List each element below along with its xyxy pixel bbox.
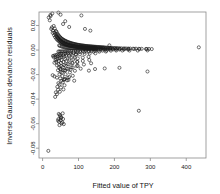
data-point (197, 46, 200, 49)
data-point (66, 62, 69, 65)
data-point (83, 52, 86, 55)
data-point (93, 68, 96, 71)
data-point (87, 55, 90, 58)
y-tick-label: -0.08 (30, 141, 36, 155)
x-axis-title: Fitted value of TPY (93, 181, 154, 190)
x-tick-label: 400 (181, 164, 192, 170)
plot-box (39, 12, 206, 158)
data-point (78, 53, 81, 56)
data-point (48, 19, 51, 22)
data-point (58, 90, 61, 93)
residual-scatter-figure: 01002003004000.020.00-0.02-0.04-0.06-0.0… (0, 0, 220, 194)
tick-labels-layer: 01002003004000.020.00-0.02-0.04-0.06-0.0… (30, 19, 192, 170)
data-point (87, 69, 90, 72)
data-point (68, 25, 71, 28)
data-point (73, 79, 76, 82)
data-point (80, 14, 83, 17)
data-point (71, 74, 74, 77)
data-point (79, 67, 82, 70)
data-point (47, 149, 50, 152)
data-point (64, 20, 67, 23)
data-point (103, 67, 106, 70)
y-tick-label: -0.02 (30, 67, 36, 81)
data-points-layer (47, 11, 201, 152)
data-point (62, 22, 65, 25)
scatter-plot-canvas: 01002003004000.020.00-0.02-0.04-0.06-0.0… (0, 0, 220, 194)
data-point (58, 124, 61, 127)
x-tick-label: 100 (73, 164, 84, 170)
data-point (64, 73, 67, 76)
data-point (90, 62, 93, 65)
data-point (55, 76, 58, 79)
data-point (118, 66, 121, 69)
y-tick-label: 0.00 (30, 44, 36, 56)
data-point (56, 88, 59, 91)
data-point (146, 70, 149, 73)
x-tick-label: 300 (145, 164, 156, 170)
data-point (63, 84, 66, 87)
data-point (82, 63, 85, 66)
data-point (83, 27, 86, 30)
data-point (73, 69, 76, 72)
y-tick-label: -0.06 (30, 116, 36, 130)
data-point (76, 57, 79, 60)
axes-layer (36, 12, 206, 161)
y-tick-label: -0.04 (30, 92, 36, 106)
data-point (89, 29, 92, 32)
data-point (88, 58, 91, 61)
data-point (62, 88, 65, 91)
x-tick-label: 0 (41, 164, 45, 170)
x-tick-label: 200 (109, 164, 120, 170)
y-tick-label: 0.02 (30, 19, 36, 31)
data-point (81, 56, 84, 59)
data-point (137, 109, 140, 112)
data-point (59, 13, 62, 16)
y-axis-title: Inverse Gaussian deviance residuals (5, 27, 14, 145)
data-point (81, 59, 84, 62)
